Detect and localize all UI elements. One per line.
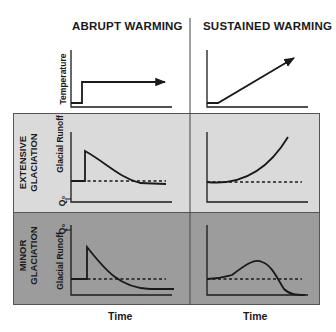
minor-panels <box>65 225 308 295</box>
extensive-panels <box>65 132 308 202</box>
diagram-curves <box>0 0 336 332</box>
